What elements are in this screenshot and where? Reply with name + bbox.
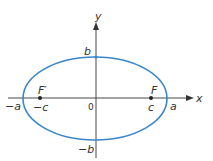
x-axis-label: x bbox=[195, 92, 203, 105]
vertex-left-label: −a bbox=[5, 100, 21, 113]
ellipse-curve bbox=[23, 57, 167, 140]
ellipse-diagram: y x 0 b −b −a a F′ −c F c bbox=[0, 0, 213, 161]
y-axis-arrow-icon bbox=[93, 22, 99, 30]
focus-right-coord: c bbox=[148, 101, 154, 114]
vertex-bottom-label: −b bbox=[78, 143, 94, 156]
y-axis-label: y bbox=[94, 10, 102, 23]
focus-right-name: F bbox=[151, 84, 158, 97]
x-axis-arrow-icon bbox=[186, 95, 194, 101]
vertex-right-label: a bbox=[170, 100, 177, 113]
focus-left-coord: −c bbox=[33, 101, 48, 114]
focus-left-name: F′ bbox=[38, 84, 47, 97]
vertex-top-label: b bbox=[84, 45, 91, 58]
origin-label: 0 bbox=[88, 102, 94, 112]
vertex-b-dot bbox=[94, 55, 97, 58]
